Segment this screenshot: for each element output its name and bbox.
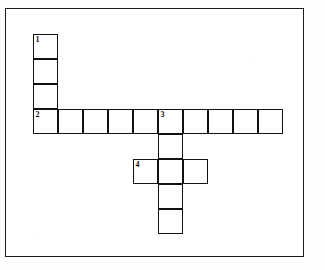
cell-letter xyxy=(84,110,107,133)
cell-3-down-2[interactable] xyxy=(158,134,183,159)
cell-2-across-8[interactable] xyxy=(208,109,233,134)
cell-2-across-4[interactable] xyxy=(108,109,133,134)
cell-letter xyxy=(59,110,82,133)
cell-3-down-4[interactable] xyxy=(158,184,183,209)
cell-letter xyxy=(134,160,157,183)
cell-3-down-3[interactable] xyxy=(158,159,183,184)
cell-2-across-10[interactable] xyxy=(258,109,283,134)
cell-1-down-2[interactable] xyxy=(33,59,58,84)
cell-2-across-6[interactable]: 3 xyxy=(158,109,183,134)
cell-letter xyxy=(34,60,57,83)
cell-letter xyxy=(159,210,182,233)
puzzle-outer-frame: 1234 xyxy=(5,8,304,257)
cell-1-down-3[interactable] xyxy=(33,84,58,109)
cell-3-down-5[interactable] xyxy=(158,209,183,234)
cell-letter xyxy=(159,110,182,133)
cell-letter xyxy=(184,110,207,133)
cell-letter xyxy=(34,35,57,58)
cell-4-across-1[interactable]: 4 xyxy=(133,159,158,184)
cell-letter xyxy=(34,110,57,133)
cell-2-across-3[interactable] xyxy=(83,109,108,134)
cell-letter xyxy=(259,110,282,133)
cell-letter xyxy=(159,135,182,158)
cell-2-across-5[interactable] xyxy=(133,109,158,134)
cell-letter xyxy=(184,160,207,183)
cell-4-across-3[interactable] xyxy=(183,159,208,184)
cell-letter xyxy=(134,110,157,133)
cell-letter xyxy=(209,110,232,133)
crossword-page: 1234 xyxy=(0,0,325,270)
cell-letter xyxy=(234,110,257,133)
cell-letter xyxy=(34,85,57,108)
cell-2-across-9[interactable] xyxy=(233,109,258,134)
cell-letter xyxy=(109,110,132,133)
cell-2-across-7[interactable] xyxy=(183,109,208,134)
cell-2-across-2[interactable] xyxy=(58,109,83,134)
cell-1-down-1[interactable]: 1 xyxy=(33,34,58,59)
cell-letter xyxy=(159,185,182,208)
cell-letter xyxy=(159,160,182,183)
cell-2-across-1[interactable]: 2 xyxy=(33,109,58,134)
